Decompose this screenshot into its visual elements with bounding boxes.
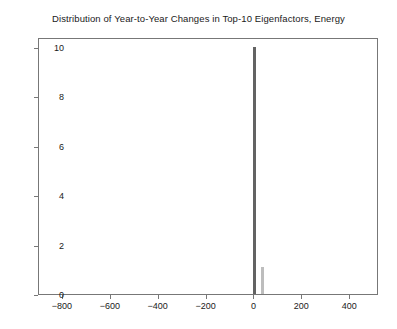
x-axis-tick-label: −800 bbox=[52, 301, 72, 311]
bar bbox=[261, 267, 264, 294]
x-axis-tick bbox=[206, 295, 207, 299]
x-axis-tick-label: −400 bbox=[148, 301, 168, 311]
plot-area bbox=[39, 39, 377, 294]
y-axis-tick-label: 0 bbox=[59, 290, 64, 300]
y-axis-tick bbox=[34, 295, 38, 296]
y-axis-tick bbox=[34, 246, 38, 247]
x-axis-tick-label: −200 bbox=[195, 301, 215, 311]
x-axis-tick bbox=[158, 295, 159, 299]
x-axis-tick-label: 0 bbox=[251, 301, 256, 311]
y-axis-tick-label: 4 bbox=[59, 191, 64, 201]
y-axis-tick bbox=[34, 196, 38, 197]
y-axis-tick-label: 8 bbox=[59, 92, 64, 102]
bar bbox=[253, 47, 256, 294]
y-axis-tick-label: 10 bbox=[54, 43, 64, 53]
chart-title: Distribution of Year-to-Year Changes in … bbox=[0, 13, 397, 24]
x-axis-tick-label: 200 bbox=[294, 301, 309, 311]
x-axis-tick bbox=[253, 295, 254, 299]
y-axis-tick-label: 6 bbox=[59, 142, 64, 152]
chart-figure: Distribution of Year-to-Year Changes in … bbox=[0, 0, 397, 329]
y-axis-tick bbox=[34, 147, 38, 148]
x-axis-tick-label: 400 bbox=[342, 301, 357, 311]
plot-frame bbox=[38, 38, 378, 295]
y-axis-tick bbox=[34, 48, 38, 49]
y-axis-tick bbox=[34, 97, 38, 98]
x-axis-tick bbox=[349, 295, 350, 299]
x-axis-tick-label: −600 bbox=[100, 301, 120, 311]
y-axis-tick-label: 2 bbox=[59, 241, 64, 251]
x-axis-tick bbox=[301, 295, 302, 299]
x-axis-tick bbox=[110, 295, 111, 299]
